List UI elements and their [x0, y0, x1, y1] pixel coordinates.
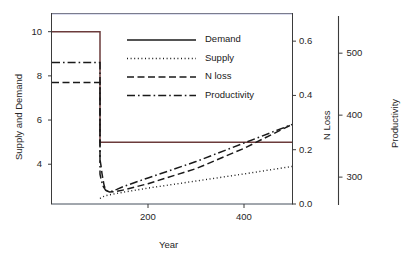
x-axis-title: Year — [159, 240, 178, 250]
legend-label-n-loss: N loss — [205, 71, 231, 81]
series-line-n-loss — [52, 82, 292, 192]
bottom-axis-ticks — [148, 204, 244, 208]
right-axis-title: N Loss — [322, 110, 332, 140]
y-tick-label: 8 — [37, 71, 42, 81]
y-tick-label: 4 — [37, 159, 42, 169]
n-loss-tick-label: 0.4 — [299, 90, 312, 100]
legend-label-productivity: Productivity — [205, 90, 254, 100]
productivity-tick-label: 300 — [347, 172, 363, 182]
n-loss-tick-label: 0.0 — [299, 199, 312, 209]
productivity-tick-label: 500 — [347, 48, 363, 58]
y-axis-title: Supply and Demand — [14, 74, 24, 160]
productivity-axis-ticks — [339, 53, 343, 177]
far-right-axis — [339, 16, 343, 205]
data-series-group — [52, 32, 292, 199]
legend-label-demand: Demand — [205, 34, 241, 44]
series-line-supply — [100, 166, 292, 198]
chart-figure: 468102004000.00.20.40.6300400500DemandSu… — [0, 0, 405, 264]
n-loss-tick-label: 0.2 — [299, 145, 312, 155]
legend-label-supply: Supply — [205, 53, 234, 63]
series-line-demand — [52, 32, 292, 142]
far-right-axis-title: Productivity — [390, 99, 400, 148]
n-loss-tick-label: 0.6 — [299, 36, 312, 46]
y-tick-label: 10 — [31, 27, 42, 37]
y-tick-label: 6 — [37, 115, 42, 125]
legend-sample-lines — [127, 40, 196, 96]
x-tick-label: 200 — [140, 212, 156, 222]
productivity-tick-label: 400 — [347, 110, 363, 120]
x-tick-label: 400 — [236, 212, 252, 222]
chart-canvas — [0, 0, 405, 264]
